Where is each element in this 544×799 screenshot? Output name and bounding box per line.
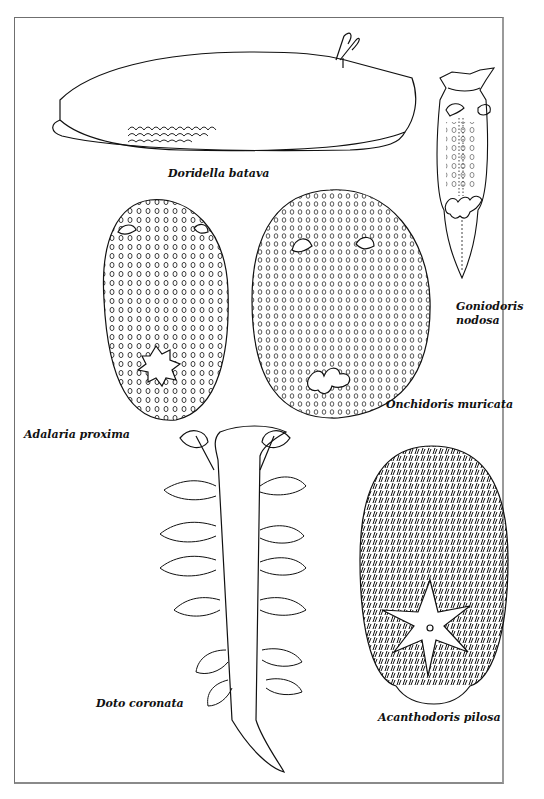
label-adalaria-proxima: Adalaria proxima	[24, 428, 130, 441]
label-doridella-batava: Doridella batava	[168, 167, 269, 180]
label-doto-coronata: Doto coronata	[96, 697, 184, 710]
drawing-doridella-batava	[53, 33, 416, 150]
label-onchidoris-muricata: Onchidoris muricata	[386, 398, 513, 411]
label-goniodoris-nodosa-line2: nodosa	[456, 314, 500, 327]
label-goniodoris-nodosa-line1: Goniodoris	[456, 300, 523, 313]
drawing-onchidoris-muricata	[252, 190, 430, 418]
drawing-goniodoris-nodosa	[437, 68, 494, 278]
drawing-adalaria-proxima	[103, 200, 228, 421]
drawing-acanthodoris-pilosa	[360, 446, 508, 704]
drawing-doto-coronata	[160, 426, 306, 772]
label-acanthodoris-pilosa: Acanthodoris pilosa	[378, 711, 501, 724]
